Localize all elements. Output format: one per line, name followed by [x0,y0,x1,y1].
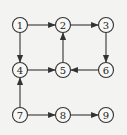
node-label: 6 [103,65,109,76]
node-9: 9 [99,108,114,123]
node-2: 2 [56,18,71,33]
node-label: 2 [60,20,66,31]
node-label: 3 [103,20,109,31]
node-label: 1 [17,20,23,31]
node-label: 9 [103,110,109,121]
node-7: 7 [13,108,28,123]
directed-graph: 1 2 3 4 5 6 7 8 9 [0,0,127,135]
node-5: 5 [56,63,71,78]
node-label: 5 [60,65,66,76]
node-8: 8 [56,108,71,123]
node-label: 8 [60,110,66,121]
node-6: 6 [99,63,114,78]
node-4: 4 [13,63,28,78]
node-label: 4 [17,65,23,76]
node-3: 3 [99,18,114,33]
node-1: 1 [13,18,28,33]
node-label: 7 [17,110,23,121]
